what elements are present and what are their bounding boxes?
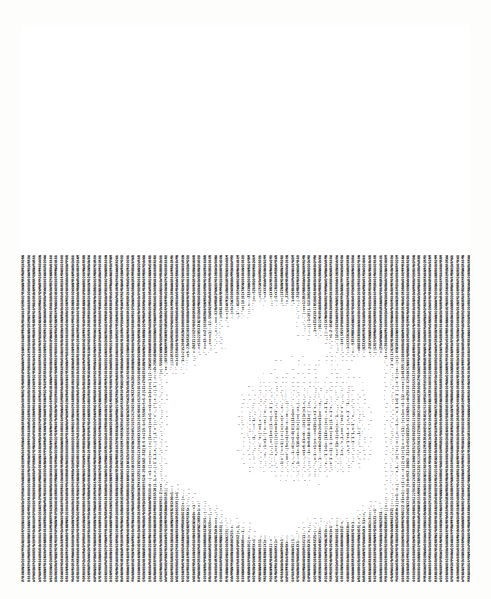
ascii-art-page: RRRM80N0NQWQ00W8MM8WNQQ00RMQQN88QRNWQW0W…	[0, 0, 491, 599]
ascii-art-canvas: RRRM80N0NQWQ00W8MM8WNQQ00RMQQN88QRNWQW0W…	[21, 29, 470, 582]
ascii-art-plate: RRRM80N0NQWQ00W8MM8WNQQ00RMQQN88QRNWQW0W…	[21, 25, 470, 582]
